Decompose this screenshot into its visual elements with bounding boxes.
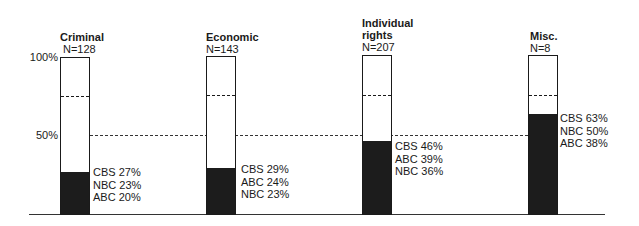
bar-fill-cbs [529,114,557,214]
bar-economic [206,56,236,215]
network-percent-list: CBS 27% NBC 23% ABC 20% [93,166,141,204]
network-label: CBS 63% [560,112,608,125]
network-label: ABC 24% [241,176,289,189]
group-title: Misc. [530,31,558,42]
network-percent-list: CBS 63% NBC 50% ABC 38% [560,112,608,150]
network-label: ABC 20% [93,191,141,204]
group-n: N=8 [530,43,551,54]
group-title-line-2: rights [362,30,393,41]
group-title: Economic [206,32,259,43]
network-label: CBS 27% [93,166,141,179]
seventy-five-percent-marker [207,95,235,96]
network-label: CBS 29% [241,163,289,176]
x-axis-baseline [29,214,605,215]
network-label: ABC 39% [395,153,443,166]
y-tick-50: 50% [18,130,58,141]
group-n: N=207 [362,42,395,53]
network-label: ABC 38% [560,137,608,150]
group-n: N=128 [63,44,96,55]
network-label: NBC 50% [560,125,608,138]
bar-fill-cbs [61,172,89,214]
network-label: NBC 23% [93,179,141,192]
network-label: CBS 46% [395,140,443,153]
group-title-line-1: Individual [362,18,413,29]
network-label: NBC 23% [241,188,289,201]
bar-misc [528,55,558,215]
network-label: NBC 36% [395,165,443,178]
seventy-five-percent-marker [61,96,89,97]
bar-fill-cbs [363,141,391,214]
bar-fill-cbs [207,168,235,214]
group-title: Criminal [60,32,104,43]
seventy-five-percent-marker [363,95,391,96]
seventy-five-percent-marker [529,95,557,96]
chart: 100% 50% Criminal N=128 CBS 27% NBC 23% … [0,0,639,226]
network-percent-list: CBS 46% ABC 39% NBC 36% [395,140,443,178]
group-n: N=143 [206,44,239,55]
network-percent-list: CBS 29% ABC 24% NBC 23% [241,163,289,201]
bar-criminal [60,57,90,215]
y-tick-100: 100% [18,52,58,63]
fifty-percent-reference-line [60,135,528,136]
bar-individual-rights [362,55,392,215]
